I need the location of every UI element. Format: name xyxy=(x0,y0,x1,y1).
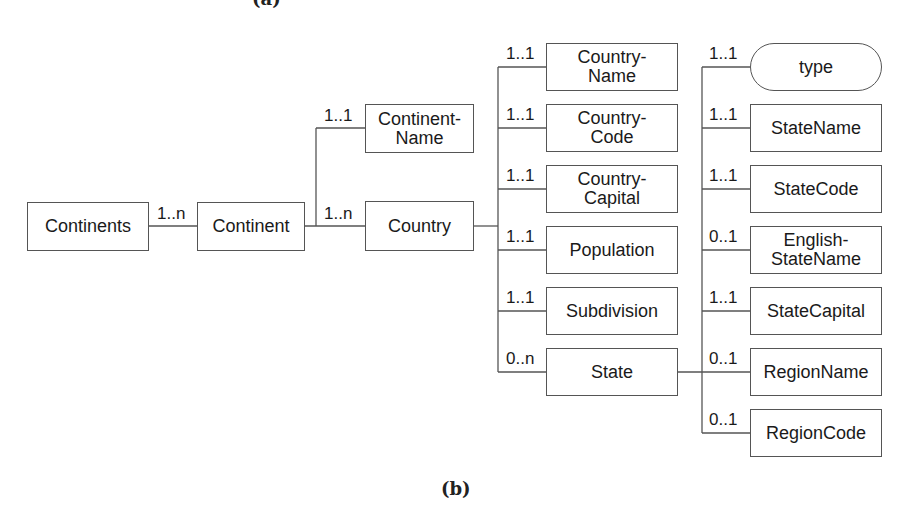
node-country-name: Country- Name xyxy=(546,43,678,91)
node-population: Population xyxy=(546,226,678,274)
node-subdivision: Subdivision xyxy=(546,287,678,335)
node-english-state-name: English- StateName xyxy=(750,226,882,274)
node-continent-name: Continent- Name xyxy=(365,104,474,153)
caption-a: (a) xyxy=(252,0,281,9)
cardinality-continent-name: 1..1 xyxy=(324,107,352,124)
cardinality-english-state-name: 0..1 xyxy=(709,228,737,245)
node-country: Country xyxy=(365,201,474,251)
cardinality-country-name: 1..1 xyxy=(506,45,534,62)
caption-b: (b) xyxy=(441,478,471,499)
node-region-code: RegionCode xyxy=(750,409,882,457)
cardinality-subdivision: 1..1 xyxy=(506,289,534,306)
schema-diagram: (a) Continents 1..n Continent 1..1 Conti… xyxy=(0,0,914,512)
node-state-capital: StateCapital xyxy=(750,287,882,335)
cardinality-state-name: 1..1 xyxy=(709,106,737,123)
node-country-capital: Country- Capital xyxy=(546,165,678,213)
cardinality-state: 0..n xyxy=(506,350,534,367)
node-state-code: StateCode xyxy=(750,165,882,213)
cardinality-continents-continent: 1..n xyxy=(157,205,185,222)
node-state: State xyxy=(546,348,678,396)
node-country-code: Country- Code xyxy=(546,104,678,152)
cardinality-population: 1..1 xyxy=(506,228,534,245)
cardinality-state-code: 1..1 xyxy=(709,167,737,184)
cardinality-region-name: 0..1 xyxy=(709,350,737,367)
node-continent: Continent xyxy=(197,202,305,251)
cardinality-country-capital: 1..1 xyxy=(506,167,534,184)
node-state-name: StateName xyxy=(750,104,882,152)
cardinality-region-code: 0..1 xyxy=(709,411,737,428)
node-type: type xyxy=(750,43,882,91)
cardinality-type: 1..1 xyxy=(709,45,737,62)
node-region-name: RegionName xyxy=(750,348,882,396)
cardinality-country-code: 1..1 xyxy=(506,106,534,123)
cardinality-state-capital: 1..1 xyxy=(709,289,737,306)
cardinality-continent-country: 1..n xyxy=(324,205,352,222)
node-continents: Continents xyxy=(27,202,149,251)
